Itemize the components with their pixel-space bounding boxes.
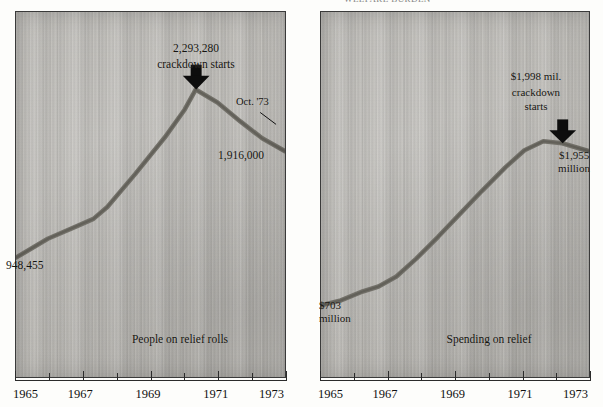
x-axis-tick-1971: [218, 371, 219, 381]
left-end-value-label: 1,916,000: [218, 148, 292, 162]
x-axis-label-1969: 1969: [136, 387, 161, 402]
right-end-value-line1: $1,955: [548, 149, 600, 162]
x-axis-tick-1967: [388, 371, 389, 381]
right-start-value-line1: $703: [319, 299, 379, 312]
right-peak-note-line1: crackdown: [498, 86, 574, 99]
x-axis-tick-1966: [354, 373, 355, 381]
right-peak-note-line2: starts: [498, 100, 574, 113]
data-line-people: [16, 90, 285, 258]
x-axis-tick-1970: [489, 373, 490, 381]
x-axis-tick-1970: [184, 373, 185, 381]
x-axis-tick-1968: [117, 373, 118, 381]
oct73-leader-line: [260, 112, 276, 124]
x-axis-tick-1973: [590, 371, 591, 381]
x-axis-label-1973: 1973: [563, 387, 588, 402]
x-axis-tick-1971: [523, 371, 524, 381]
x-axis-label-1967: 1967: [373, 387, 398, 402]
left-peak-value-label: 2,293,280: [128, 41, 264, 55]
x-axis-tick-1967: [83, 371, 84, 381]
x-axis-label-1967: 1967: [68, 387, 93, 402]
right-peak-value-label: $1,998 mil.: [496, 70, 576, 83]
x-axis-tick-1972: [252, 373, 253, 381]
x-axis-tick-1969: [151, 371, 152, 381]
x-axis-tick-1969: [455, 371, 456, 381]
x-axis-label-1965: 1965: [13, 387, 38, 402]
x-axis-tick-1968: [421, 373, 422, 381]
left-start-value-label: 948,455: [6, 258, 82, 272]
left-oct73-annotation: Oct. '73: [236, 96, 290, 109]
welfare-charts-figure: WELFARE BURDEN 2,293,280 crackdown start…: [0, 0, 603, 407]
x-axis-tick-1965: [320, 371, 321, 381]
down-arrow-icon-right: [549, 119, 576, 143]
x-axis-tick-1966: [49, 373, 50, 381]
left-panel-caption: People on relief rolls: [110, 332, 250, 346]
x-axis-label-1973: 1973: [259, 387, 284, 402]
x-axis-label-1971: 1971: [508, 387, 533, 402]
cut-off-header-text: WELFARE BURDEN: [344, 0, 464, 3]
x-axis-tick-1965: [15, 371, 16, 381]
left-peak-note-label: crackdown starts: [120, 57, 272, 71]
x-axis-label-1971: 1971: [203, 387, 228, 402]
x-axis-label-1969: 1969: [440, 387, 465, 402]
data-line-people-highlight: [16, 90, 285, 258]
right-end-value-line2: million: [548, 162, 600, 175]
right-panel-caption: Spending on relief: [424, 332, 554, 346]
x-axis-tick-1973: [286, 371, 287, 381]
x-axis-tick-1972: [556, 373, 557, 381]
right-start-value-line2: million: [319, 312, 379, 325]
x-axis-label-1965: 1965: [318, 387, 343, 402]
